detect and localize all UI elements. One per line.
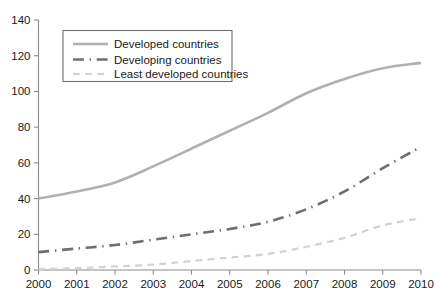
y-axis-tick-label: 0 [24,264,30,276]
series-line-1 [39,63,422,199]
y-axis-tick-label: 20 [18,228,31,240]
y-axis-tick-label: 140 [11,14,30,26]
x-axis-tick-label: 2002 [102,278,128,290]
y-axis-tick-label: 100 [11,85,30,97]
chart-canvas: 020406080100120140 200020012002200320042… [0,0,438,298]
data-series-group [39,63,422,269]
legend-label-3: Least developed countries [114,68,249,80]
series-line-3 [39,218,422,269]
x-axis-tick-label: 2010 [408,278,434,290]
x-axis-tick-label: 2009 [370,278,396,290]
x-axis-tick-label: 2006 [255,278,281,290]
y-axis-tick-label: 80 [18,121,31,133]
x-axis-tick-label: 2001 [64,278,90,290]
line-chart: 020406080100120140 200020012002200320042… [0,0,438,298]
legend-label-2: Developing countries [114,54,222,66]
series-line-2 [39,147,422,252]
legend-label-1: Developed countries [114,38,219,50]
x-axis-tick-label: 2007 [293,278,319,290]
x-axis-tick-label: 2008 [332,278,358,290]
x-axis-tick-group: 2000200120022003200420052006200720082009… [26,270,434,290]
x-axis-tick-label: 2000 [26,278,52,290]
x-axis-tick-label: 2004 [179,278,205,290]
chart-legend: Developed countriesDeveloping countriesL… [63,31,249,82]
x-axis-tick-label: 2005 [217,278,243,290]
y-axis-tick-group: 020406080100120140 [11,14,38,276]
x-axis-tick-label: 2003 [140,278,166,290]
y-axis-tick-label: 60 [18,157,31,169]
y-axis-tick-label: 40 [18,193,31,205]
y-axis-tick-label: 120 [11,50,30,62]
